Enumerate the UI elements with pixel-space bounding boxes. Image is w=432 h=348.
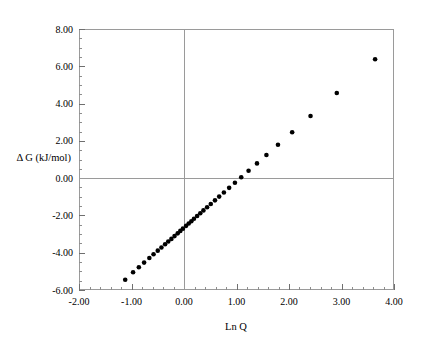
data-point <box>151 252 156 257</box>
data-point <box>334 91 339 96</box>
x-tick-label: 3.00 <box>333 296 351 307</box>
data-point <box>201 208 206 213</box>
data-point <box>205 205 210 210</box>
data-point <box>246 168 251 173</box>
data-point <box>264 153 269 158</box>
data-point <box>147 256 152 261</box>
x-tick-label: 2.00 <box>280 296 298 307</box>
x-tick-label: 0.00 <box>175 296 193 307</box>
plot-frame <box>80 30 394 290</box>
data-point <box>308 114 313 119</box>
data-point <box>222 190 227 195</box>
y-tick-label: 0.00 <box>56 173 74 184</box>
data-point <box>213 198 218 203</box>
data-point <box>373 57 378 62</box>
y-tick-label: 8.00 <box>56 24 74 35</box>
data-point <box>239 175 244 180</box>
y-tick-label: 2.00 <box>56 135 74 146</box>
major-tick-marks <box>79 30 395 291</box>
chart-figure: -2.00-1.000.001.002.003.004.00 -6.00-4.0… <box>0 0 432 348</box>
minor-tick-marks <box>79 30 395 291</box>
data-point <box>255 161 260 166</box>
data-point <box>227 186 232 191</box>
data-point-group <box>123 57 378 282</box>
data-point <box>123 277 128 282</box>
x-tick-label: 1.00 <box>228 296 246 307</box>
data-point <box>217 194 222 199</box>
zero-reference-lines <box>79 29 394 290</box>
data-point <box>208 202 213 207</box>
x-tick-label: 4.00 <box>385 296 403 307</box>
y-axis-title: Δ G (kJ/mol) <box>16 152 71 164</box>
data-point <box>276 142 281 147</box>
scatter-plot-svg: -2.00-1.000.001.002.003.004.00 -6.00-4.0… <box>0 0 432 348</box>
x-axis-title: Ln Q <box>225 321 247 332</box>
x-tick-label: -2.00 <box>69 296 90 307</box>
y-tick-label: -2.00 <box>52 210 73 221</box>
data-point <box>290 130 295 135</box>
x-tick-label: -1.00 <box>121 296 142 307</box>
data-point <box>142 260 147 265</box>
data-point <box>233 181 238 186</box>
plot-frame-rect <box>80 30 394 290</box>
y-tick-label: 4.00 <box>56 98 74 109</box>
y-tick-label: -4.00 <box>52 247 73 258</box>
y-tick-label: -6.00 <box>52 285 73 296</box>
data-point <box>159 245 164 250</box>
y-tick-label: 6.00 <box>56 61 74 72</box>
data-point <box>155 248 160 253</box>
x-axis-tick-labels: -2.00-1.000.001.002.003.004.00 <box>69 296 403 307</box>
data-point <box>131 270 136 275</box>
data-point <box>137 265 142 270</box>
